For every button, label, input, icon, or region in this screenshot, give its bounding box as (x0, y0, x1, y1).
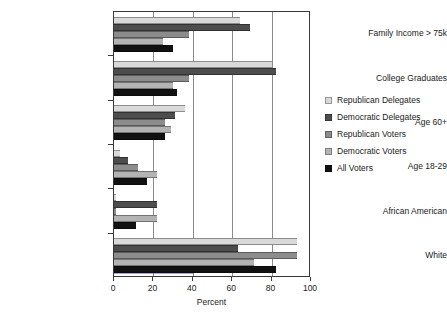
legend-item: Republican Voters (325, 126, 445, 142)
legend-label: Democratic Delegates (337, 112, 421, 122)
legend-label: Democratic Voters (337, 146, 406, 156)
x-axis-tick (192, 277, 193, 281)
x-axis-tick-label: 100 (295, 283, 325, 293)
y-axis-label: Family Income > 75k (337, 28, 447, 38)
bar (114, 201, 157, 208)
bar (114, 222, 136, 229)
bar (114, 45, 173, 52)
bar (114, 194, 116, 201)
bar (114, 208, 116, 215)
bar-chart: Family Income > 75kCollege GraduatesAge … (0, 0, 447, 318)
bar (114, 17, 240, 24)
bar (114, 245, 238, 252)
bar (114, 68, 276, 75)
bar (114, 126, 171, 133)
bar (114, 89, 177, 96)
legend-swatch-icon (325, 97, 332, 104)
bar (114, 252, 297, 259)
x-axis-title: Percent (113, 297, 310, 307)
x-axis-tick (271, 277, 272, 281)
x-axis-tick-label: 40 (177, 283, 207, 293)
x-axis-tick (310, 277, 311, 281)
legend-swatch-icon (325, 114, 332, 121)
bar (114, 178, 147, 185)
legend-item: All Voters (325, 160, 445, 176)
baseline-artifact (114, 273, 194, 274)
bar (114, 171, 157, 178)
chart-legend: Republican DelegatesDemocratic Delegates… (325, 92, 445, 177)
legend-item: Democratic Voters (325, 143, 445, 159)
y-axis-tick (108, 55, 113, 56)
bar (114, 61, 272, 68)
legend-item: Republican Delegates (325, 92, 445, 108)
bar (114, 75, 189, 82)
bar (114, 119, 165, 126)
y-axis-label: African American (337, 206, 447, 216)
x-axis-tick-label: 80 (256, 283, 286, 293)
x-axis-tick-label: 0 (98, 283, 128, 293)
gridline (193, 12, 194, 276)
gridline (232, 12, 233, 276)
bar (114, 133, 165, 140)
bar (114, 38, 163, 45)
y-axis-label: College Graduates (337, 73, 447, 83)
legend-label: All Voters (337, 163, 373, 173)
bar (114, 82, 173, 89)
legend-swatch-icon (325, 148, 332, 155)
bar (114, 164, 138, 171)
bar (114, 215, 157, 222)
x-axis-tick (113, 277, 114, 281)
legend-item: Democratic Delegates (325, 109, 445, 125)
legend-swatch-icon (325, 165, 332, 172)
legend-label: Republican Delegates (337, 95, 420, 105)
bar (114, 259, 254, 266)
y-axis-tick (108, 100, 113, 101)
plot-area (113, 11, 310, 277)
bar (114, 112, 175, 119)
gridline (272, 12, 273, 276)
legend-swatch-icon (325, 131, 332, 138)
bar (114, 24, 250, 31)
y-axis-label: White (337, 250, 447, 260)
y-axis-tick (108, 188, 113, 189)
bar (114, 105, 185, 112)
x-axis-tick-label: 60 (216, 283, 246, 293)
bar (114, 31, 189, 38)
x-axis-tick-label: 20 (137, 283, 167, 293)
bar (114, 238, 297, 245)
x-axis-tick (152, 277, 153, 281)
bar (114, 150, 120, 157)
y-axis-tick (108, 144, 113, 145)
x-axis-tick (231, 277, 232, 281)
y-axis-tick (108, 233, 113, 234)
bar (114, 157, 128, 164)
legend-label: Republican Voters (337, 129, 406, 139)
